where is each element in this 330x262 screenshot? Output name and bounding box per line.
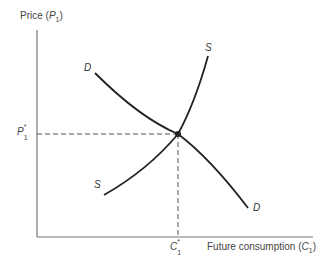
demand-label-top: D [84,62,91,73]
c-star-label: C*1 [170,241,181,254]
x-axis-label-var: C [302,241,309,252]
x-axis-label-prefix: Future consumption ( [207,241,302,252]
p-star-var: P [17,126,24,137]
y-axis-label-suffix: ) [59,10,62,21]
c-star-sub: 1 [177,249,181,256]
y-axis-label-prefix: Price ( [20,10,49,21]
y-axis-label: Price (P1) [20,10,63,23]
x-axis-label: Future consumption (C1) [207,241,316,254]
supply-curve [104,56,208,195]
p-star-sub: 1 [24,134,28,141]
chart-canvas [0,0,330,262]
p-star-sup: * [24,123,27,130]
supply-label-top: S [205,42,212,53]
supply-label-bottom: S [94,179,101,190]
equilibrium-point [175,131,181,137]
y-axis-label-var: P [49,10,56,21]
p-star-label: P*1 [17,126,28,139]
demand-label-bottom: D [253,202,260,213]
demand-curve-tail [178,134,248,208]
c-star-sup: * [177,238,180,245]
x-axis-label-suffix: ) [313,241,316,252]
